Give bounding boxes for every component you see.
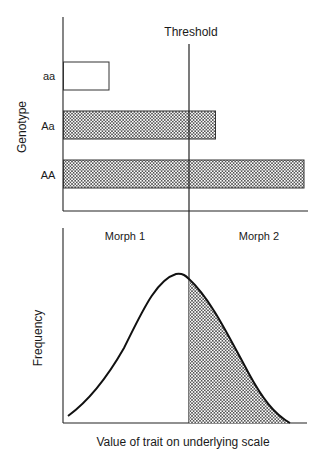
bar-Aa xyxy=(64,111,216,139)
frequency-panel: Morph 1 Morph 2 Frequency Value of trait… xyxy=(31,228,307,449)
morph2-shaded-area xyxy=(189,260,299,423)
bar-AA xyxy=(64,160,305,188)
bar-aa xyxy=(64,62,110,90)
morph1-label: Morph 1 xyxy=(105,230,145,242)
threshold-label: Threshold xyxy=(164,25,217,39)
threshold-model-diagram: aa Aa AA Genotype Threshold Morph 1 Morp… xyxy=(0,0,324,464)
genotype-label-AA: AA xyxy=(41,169,56,181)
genotype-label-aa: aa xyxy=(43,70,56,82)
genotype-axis-title: Genotype xyxy=(15,101,29,153)
morph2-label: Morph 2 xyxy=(239,230,279,242)
frequency-axis-title: Frequency xyxy=(31,310,45,367)
genotype-label-Aa: Aa xyxy=(41,120,55,132)
trait-axis-title: Value of trait on underlying scale xyxy=(96,435,270,449)
genotype-panel: aa Aa AA Genotype xyxy=(15,17,308,211)
